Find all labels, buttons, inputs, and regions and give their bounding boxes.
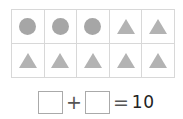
circle-icon [84,18,101,35]
equation-result: 10 [132,90,155,114]
triangle-icon [117,19,135,34]
circle-icon [19,18,36,35]
grid-cell [77,10,110,44]
equals-sign: = [113,90,129,114]
triangle-icon [51,53,69,68]
answer-box-2[interactable] [85,91,110,114]
grid-cell [142,10,175,44]
grid-cell [77,44,110,78]
triangle-icon [149,53,167,68]
triangle-icon [117,53,135,68]
grid-cell [45,10,78,44]
triangle-icon [84,53,102,68]
grid-cell [110,44,143,78]
grid-cell [12,10,45,44]
grid-cell [110,10,143,44]
circle-icon [52,18,69,35]
triangle-icon [19,53,37,68]
shape-grid [11,9,175,78]
plus-sign: + [66,90,82,114]
answer-box-1[interactable] [38,91,63,114]
grid-cell [12,44,45,78]
equation: + = 10 [38,90,154,114]
grid-cell [142,44,175,78]
grid-cell [45,44,78,78]
triangle-icon [149,19,167,34]
